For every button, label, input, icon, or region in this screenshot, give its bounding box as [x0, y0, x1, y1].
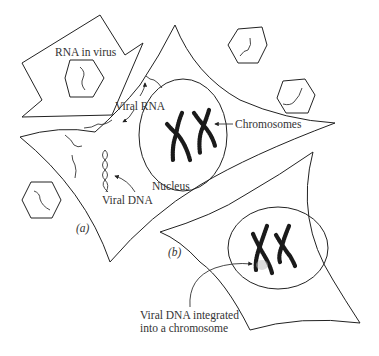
virus-particle-2: [228, 27, 267, 63]
virus-particle-1: [65, 60, 104, 97]
nucleus-b: [228, 207, 328, 289]
chromosome-pair-b: [253, 226, 295, 273]
label-viral-dna: Viral DNA: [102, 194, 153, 206]
label-viral-rna: Viral RNA: [115, 100, 165, 112]
label-chromosomes: Chromosomes: [235, 118, 301, 130]
virus-particle-3: [277, 79, 315, 113]
label-integrated-line2: into a chromosome: [140, 322, 228, 334]
label-nucleus: Nucleus: [152, 180, 190, 192]
nucleus-a: [139, 79, 227, 191]
viral-dna-helix: [103, 150, 109, 192]
label-panel-a: (a): [76, 222, 89, 234]
label-integrated-line1: Viral DNA integrated: [140, 309, 239, 321]
virus-particle-4: [22, 182, 61, 218]
viral-rna-strands: [65, 76, 162, 178]
label-rna-in-virus: RNA in virus: [55, 46, 116, 58]
label-panel-b: (b): [168, 246, 181, 258]
chromosome-pair-a: [167, 110, 215, 160]
